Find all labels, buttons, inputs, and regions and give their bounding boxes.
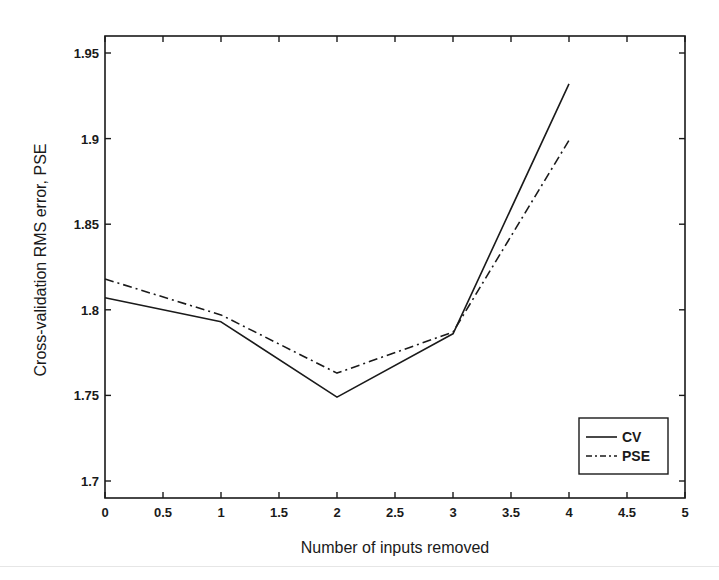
- x-tick-label: 4: [565, 505, 573, 520]
- series-layer: [105, 84, 569, 397]
- legend-pse-label: PSE: [622, 448, 650, 464]
- x-tick-label: 1: [217, 505, 224, 520]
- series-cv-line: [105, 84, 569, 397]
- x-tick-label: 3.5: [502, 505, 520, 520]
- y-tick-label: 1.85: [74, 217, 99, 232]
- legend-cv-label: CV: [622, 429, 642, 445]
- page-edge-divider: [0, 566, 719, 567]
- y-tick-label: 1.9: [81, 132, 99, 147]
- x-tick-label: 4.5: [618, 505, 636, 520]
- y-tick-label: 1.7: [81, 474, 99, 489]
- series-pse-line: [105, 140, 569, 373]
- line-chart: 1.71.751.81.851.91.95 00.511.522.533.544…: [0, 0, 719, 580]
- x-tick-label: 3: [449, 505, 456, 520]
- legend-box: [579, 418, 668, 474]
- y-tick-label: 1.75: [74, 388, 99, 403]
- x-tick-label: 2: [333, 505, 340, 520]
- y-tick-label: 1.95: [74, 46, 99, 61]
- x-tick-label: 0.5: [154, 505, 172, 520]
- x-tick-label: 0: [101, 505, 108, 520]
- x-tick-label: 1.5: [270, 505, 288, 520]
- x-tick-label: 5: [681, 505, 688, 520]
- y-tick-label: 1.8: [81, 303, 99, 318]
- x-tick-label: 2.5: [386, 505, 404, 520]
- y-axis-label: Cross-validation RMS error, PSE: [32, 144, 49, 377]
- legend: CVPSE: [579, 418, 668, 474]
- x-axis-label: Number of inputs removed: [301, 539, 490, 556]
